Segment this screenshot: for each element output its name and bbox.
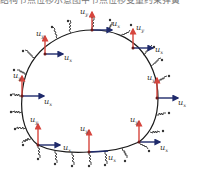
svg-text:uy: uy: [30, 115, 38, 126]
boundary-segment: [89, 151, 108, 152]
svg-text:ux: ux: [112, 19, 120, 29]
node-lower-right: uy ux: [130, 115, 168, 153]
svg-text:uy: uy: [80, 124, 88, 135]
svg-text:uy: uy: [36, 29, 44, 40]
svg-text:ux: ux: [108, 153, 116, 163]
svg-text:uy: uy: [13, 71, 21, 82]
svg-text:ux: ux: [155, 45, 163, 55]
node-upper-right: uy ux: [132, 23, 164, 55]
svg-text:ux: ux: [160, 143, 168, 153]
node-mid-right: uy ux: [147, 73, 186, 108]
svg-text:ux: ux: [63, 143, 71, 153]
node-lower-left: uy ux: [30, 115, 71, 153]
spring-anchors: [10, 16, 170, 167]
node-mid-left: uy ux: [13, 71, 52, 107]
node-bottom-center: uy ux: [80, 124, 116, 163]
svg-text:uy: uy: [130, 115, 138, 126]
node-top: uy ux: [80, 7, 120, 32]
svg-text:ux: ux: [44, 97, 52, 107]
svg-text:uy: uy: [136, 23, 144, 34]
svg-text:ux: ux: [64, 53, 72, 63]
svg-text:uy: uy: [80, 7, 88, 18]
svg-text:ux: ux: [178, 98, 186, 108]
tunnel-lining-diagram: uy ux uy ux uy ux uy ux uy ux uy: [0, 0, 198, 177]
